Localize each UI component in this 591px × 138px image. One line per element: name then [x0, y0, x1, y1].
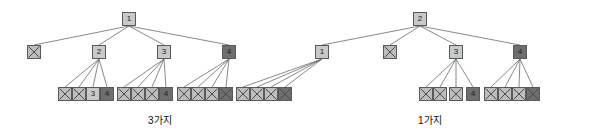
tree-node: 4 [159, 87, 173, 101]
cross-out-icon [237, 88, 249, 100]
tree-node-pruned [205, 87, 219, 101]
tree-node-pruned [383, 45, 397, 59]
cross-out-icon [527, 88, 539, 100]
tree-edge [164, 59, 166, 87]
tree-node-label: 2 [97, 47, 101, 56]
tree-node-pruned [145, 87, 159, 101]
tree-edge [420, 26, 520, 45]
tree-edge [243, 59, 322, 87]
cross-out-icon [28, 46, 40, 58]
cross-out-icon [178, 88, 190, 100]
cross-out-icon [279, 88, 291, 100]
tree-edge [390, 26, 420, 45]
tree-edge [285, 59, 322, 87]
tree-node-label: 4 [227, 47, 231, 56]
tree-node-pruned [250, 87, 264, 101]
caption-right: 1가지 [418, 112, 442, 127]
cross-out-icon [192, 88, 204, 100]
cross-out-icon [450, 88, 462, 100]
tree-node: 4 [222, 45, 236, 59]
cross-out-icon [384, 46, 396, 58]
tree-node-pruned [58, 87, 72, 101]
tree-node-pruned [512, 87, 526, 101]
tree-edge [491, 59, 520, 87]
cross-out-icon [251, 88, 263, 100]
tree-edge [440, 59, 456, 87]
tree-edge [129, 26, 229, 45]
tree-node-label: 3 [454, 47, 458, 56]
tree-edge [420, 26, 456, 45]
tree-node-pruned [191, 87, 205, 101]
tree-node-pruned [498, 87, 512, 101]
tree-node-label: 4 [164, 89, 168, 98]
cross-out-icon [499, 88, 511, 100]
tree-edge [322, 26, 420, 45]
tree-edge [79, 59, 99, 87]
cross-out-icon [420, 88, 432, 100]
tree-node: 4 [513, 45, 527, 59]
tree-node: 2 [413, 12, 427, 26]
tree-edge [257, 59, 322, 87]
tree-node-label: 3 [91, 89, 95, 98]
tree-node: 3 [449, 45, 463, 59]
cross-out-icon [485, 88, 497, 100]
tree-edge [226, 59, 229, 87]
caption-left: 3가지 [148, 112, 172, 127]
tree-edge [198, 59, 229, 87]
tree-diagram-figure: 123434421344 3가지1가지 [0, 0, 591, 138]
tree-node-pruned [27, 45, 41, 59]
tree-node: 1 [122, 12, 136, 26]
tree-node-label: 2 [418, 14, 422, 23]
tree-edge [184, 59, 229, 87]
tree-edge [93, 59, 99, 87]
tree-node-pruned [131, 87, 145, 101]
tree-node: 1 [315, 45, 329, 59]
cross-out-icon [513, 88, 525, 100]
tree-node-pruned [449, 87, 463, 101]
tree-node-pruned [177, 87, 191, 101]
tree-node: 3 [157, 45, 171, 59]
tree-edge [34, 26, 129, 45]
cross-out-icon [220, 88, 232, 100]
tree-edge [520, 59, 533, 87]
tree-edge [65, 59, 99, 87]
tree-edge [99, 26, 129, 45]
tree-node-pruned [264, 87, 278, 101]
cross-out-icon [59, 88, 71, 100]
tree-node-label: 1 [127, 14, 131, 23]
tree-edge [129, 26, 164, 45]
tree-edge [99, 59, 107, 87]
tree-node-label: 4 [518, 47, 522, 56]
tree-node: 4 [100, 87, 114, 101]
tree-edge [426, 59, 456, 87]
cross-out-icon [132, 88, 144, 100]
tree-edges-layer [0, 0, 591, 138]
tree-edge [519, 59, 520, 87]
tree-node-pruned [236, 87, 250, 101]
tree-node-pruned [117, 87, 131, 101]
tree-node-pruned [433, 87, 447, 101]
tree-node-label: 1 [320, 47, 324, 56]
tree-node-label: 4 [471, 89, 475, 98]
cross-out-icon [434, 88, 446, 100]
tree-edge [212, 59, 229, 87]
tree-node-label: 4 [105, 89, 109, 98]
tree-node: 4 [466, 87, 480, 101]
tree-node: 3 [86, 87, 100, 101]
tree-node-pruned [419, 87, 433, 101]
tree-edge [124, 59, 164, 87]
tree-node-pruned [72, 87, 86, 101]
tree-node-pruned [219, 87, 233, 101]
tree-edge [152, 59, 164, 87]
cross-out-icon [265, 88, 277, 100]
tree-node-label: 3 [162, 47, 166, 56]
tree-node-pruned [278, 87, 292, 101]
tree-edge [456, 59, 473, 87]
tree-edge [271, 59, 322, 87]
tree-edge [505, 59, 520, 87]
tree-node: 2 [92, 45, 106, 59]
cross-out-icon [73, 88, 85, 100]
cross-out-icon [118, 88, 130, 100]
tree-edge [138, 59, 164, 87]
cross-out-icon [206, 88, 218, 100]
